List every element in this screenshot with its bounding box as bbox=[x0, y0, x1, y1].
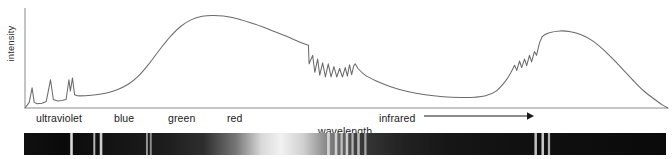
absorption-line bbox=[146, 133, 148, 155]
absorption-line bbox=[357, 133, 360, 155]
spectral-intensity-curve bbox=[25, 15, 668, 108]
absorption-line bbox=[364, 133, 366, 155]
band-label-red: red bbox=[227, 112, 242, 124]
absorption-line bbox=[534, 133, 537, 155]
y-axis-label: intensity bbox=[5, 14, 16, 74]
absorption-line bbox=[150, 133, 152, 155]
absorption-line bbox=[541, 133, 544, 155]
band-label-green: green bbox=[168, 112, 195, 124]
band-label-ultraviolet: ultraviolet bbox=[36, 112, 82, 124]
absorption-line bbox=[341, 133, 343, 155]
infrared-direction-arrow bbox=[424, 112, 534, 120]
absorption-line bbox=[351, 133, 353, 155]
spectrum-strip-background bbox=[24, 133, 666, 155]
absorption-line bbox=[327, 133, 330, 155]
absorption-line bbox=[548, 133, 550, 155]
absorption-line bbox=[93, 133, 95, 155]
arrow-head bbox=[527, 112, 534, 120]
absorption-line bbox=[70, 133, 73, 155]
absorption-line bbox=[100, 133, 103, 155]
band-label-blue: blue bbox=[114, 112, 134, 124]
absorption-spectrum-strip bbox=[24, 133, 666, 155]
spectrum-figure: intensity ultraviolet blue green red inf… bbox=[0, 0, 672, 159]
absorption-line bbox=[346, 133, 349, 155]
band-label-infrared: infrared bbox=[379, 112, 415, 124]
absorption-line bbox=[335, 133, 338, 155]
